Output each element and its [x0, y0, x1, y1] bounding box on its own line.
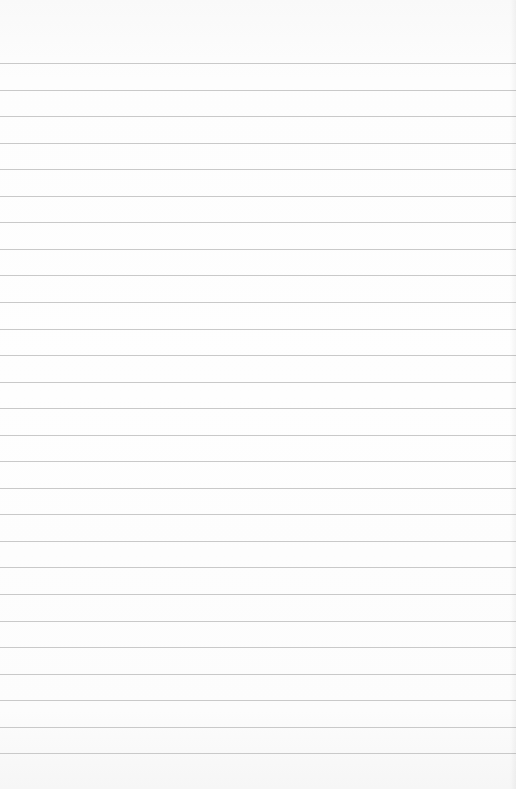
- ruled-line: [0, 700, 516, 701]
- ruled-line: [0, 514, 516, 515]
- ruled-line: [0, 541, 516, 542]
- ruled-line: [0, 116, 516, 117]
- ruled-line: [0, 275, 516, 276]
- ruled-line: [0, 143, 516, 144]
- ruled-line: [0, 329, 516, 330]
- ruled-line: [0, 408, 516, 409]
- page-edge-shadow: [510, 0, 516, 789]
- ruled-line: [0, 647, 516, 648]
- ruled-line: [0, 753, 516, 754]
- ruled-line: [0, 382, 516, 383]
- ruled-line: [0, 674, 516, 675]
- ruled-line: [0, 594, 516, 595]
- ruled-line: [0, 727, 516, 728]
- ruled-line: [0, 169, 516, 170]
- ruled-line: [0, 302, 516, 303]
- ruled-line: [0, 621, 516, 622]
- ruled-line: [0, 435, 516, 436]
- notepad-page: [0, 0, 516, 789]
- ruled-line: [0, 196, 516, 197]
- ruled-line: [0, 249, 516, 250]
- ruled-line: [0, 488, 516, 489]
- ruled-line: [0, 461, 516, 462]
- ruled-line: [0, 355, 516, 356]
- ruled-line: [0, 63, 516, 64]
- ruled-line: [0, 222, 516, 223]
- ruled-line: [0, 90, 516, 91]
- ruled-line: [0, 567, 516, 568]
